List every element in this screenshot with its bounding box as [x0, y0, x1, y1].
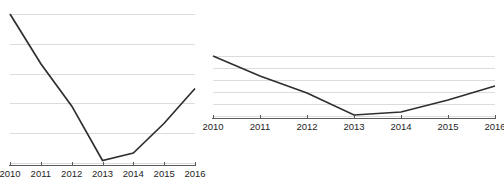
- data-line-group-tall: [10, 14, 195, 161]
- data-series-line: [213, 56, 495, 115]
- x-tick-label: 2010: [0, 168, 21, 179]
- x-tick-label: 2011: [31, 168, 51, 179]
- x-tick-label: 2013: [92, 168, 113, 179]
- x-tick-label: 2015: [154, 168, 175, 179]
- line-chart-compressed: 2010201120122013201420152016: [204, 0, 504, 189]
- line-chart-tall: 2010201120122013201420152016: [0, 0, 204, 189]
- data-series-line: [10, 14, 195, 161]
- x-tick-labels-compressed: 2010201120122013201420152016: [202, 121, 504, 132]
- chart-figure: 2010201120122013201420152016 20102011201…: [0, 0, 504, 189]
- x-tick-label: 2012: [61, 168, 82, 179]
- x-tick-label: 2011: [250, 121, 270, 132]
- x-tick-label: 2010: [202, 121, 223, 132]
- gridlines-compressed: [213, 57, 495, 117]
- gridlines-tall: [10, 15, 195, 164]
- x-tick-labels-tall: 2010201120122013201420152016: [0, 168, 206, 179]
- x-tick-label: 2012: [296, 121, 317, 132]
- x-tick-label: 2016: [184, 168, 205, 179]
- x-tick-label: 2014: [390, 121, 411, 132]
- chart-panel-compressed: 2010201120122013201420152016: [204, 0, 504, 189]
- chart-panel-tall: 2010201120122013201420152016: [0, 0, 204, 189]
- x-tick-label: 2016: [484, 121, 504, 132]
- x-tick-label: 2014: [123, 168, 144, 179]
- x-tick-label: 2015: [437, 121, 458, 132]
- x-tick-label: 2013: [343, 121, 364, 132]
- data-line-group-compressed: [213, 56, 495, 115]
